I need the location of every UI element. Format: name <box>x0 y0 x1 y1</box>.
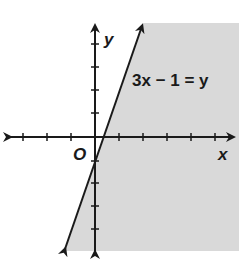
origin-label: O <box>73 145 86 164</box>
y-axis-label: y <box>103 30 115 49</box>
equation-label: 3x − 1 = y <box>132 71 209 90</box>
inequality-graph: y x O 3x − 1 = y <box>0 0 242 263</box>
x-axis-label: x <box>217 145 229 164</box>
